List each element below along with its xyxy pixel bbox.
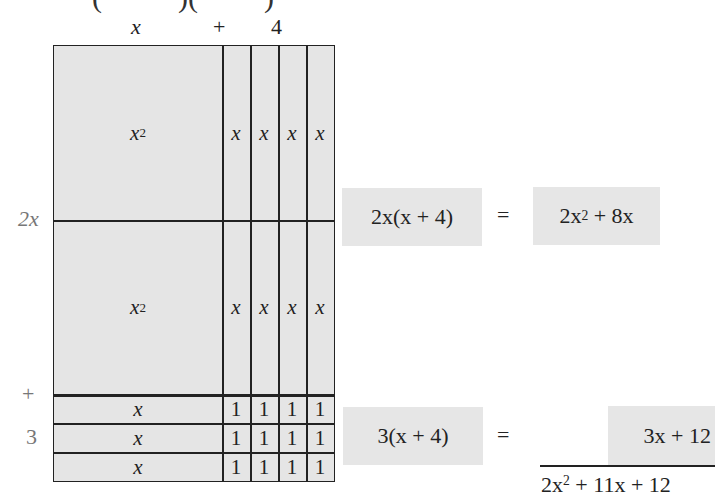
tile-unit: 1	[222, 424, 250, 452]
equation-1-lhs-text: 2x(x + 4)	[371, 204, 453, 230]
total-term: 2x	[541, 472, 563, 497]
tile-x-squared-upper: x2	[54, 46, 222, 220]
col-label-plus: +	[213, 14, 225, 40]
tile-x-strip: x	[222, 46, 250, 220]
clipped-paren-close: )	[264, 0, 274, 14]
tile-x-strip: x	[250, 221, 278, 394]
equation-1-equals: =	[497, 202, 509, 228]
tile-x-squared-lower: x2	[54, 221, 222, 394]
tile-x-bar: x	[54, 453, 222, 481]
row-label-3: 3	[26, 424, 37, 450]
row-label-plus: +	[22, 381, 34, 407]
tile-unit: 1	[250, 453, 278, 481]
tile-x-strip: x	[306, 221, 334, 394]
tile-x-strip: x	[278, 221, 306, 394]
tile-exponent: 2	[139, 300, 146, 316]
equation-2-rhs-text: 3x + 12	[644, 423, 711, 449]
clipped-paren-mid: )(	[178, 0, 198, 14]
tile-label: x	[130, 295, 139, 320]
tile-x-strip: x	[278, 46, 306, 220]
col-label-4: 4	[271, 14, 282, 40]
tile-x-bar: x	[54, 424, 222, 452]
row-label-2x: 2x	[18, 206, 39, 232]
tile-unit: 1	[222, 396, 250, 423]
tile-unit: 1	[306, 396, 334, 423]
rhs-term: 2x	[559, 203, 581, 229]
rhs-term: + 8x	[588, 203, 633, 229]
equation-2-lhs: 3(x + 4)	[343, 407, 483, 465]
tile-unit: 1	[250, 424, 278, 452]
col-label-x: x	[131, 14, 141, 40]
tile-unit: 1	[278, 424, 306, 452]
tile-x-strip: x	[222, 221, 250, 394]
equation-2-lhs-text: 3(x + 4)	[377, 423, 448, 449]
algebra-tile-grid: x2 x x x x x2 x x x x x 1 1 1 1 x 1 1 1 …	[53, 45, 335, 482]
total-exponent: 2	[563, 473, 570, 488]
rhs-exponent: 2	[581, 208, 588, 224]
tile-x-strip: x	[250, 46, 278, 220]
tile-unit: 1	[306, 453, 334, 481]
equation-2-rhs: 3x + 12	[608, 406, 715, 465]
clipped-paren-open: (	[92, 0, 102, 14]
equation-2-equals: =	[497, 422, 509, 448]
equation-1-rhs: 2x2 + 8x	[533, 187, 660, 245]
tile-x-bar: x	[54, 396, 222, 423]
equation-1-lhs: 2x(x + 4)	[342, 188, 482, 246]
tile-x-strip: x	[306, 46, 334, 220]
tile-unit: 1	[278, 396, 306, 423]
sum-underline	[540, 465, 715, 467]
tile-label: x	[130, 121, 139, 146]
tile-unit: 1	[250, 396, 278, 423]
tile-unit: 1	[278, 453, 306, 481]
tile-unit: 1	[306, 424, 334, 452]
tile-exponent: 2	[139, 125, 146, 141]
total-expression: 2x2 + 11x + 12	[541, 472, 671, 498]
total-term: + 11x + 12	[570, 472, 671, 497]
tile-unit: 1	[222, 453, 250, 481]
